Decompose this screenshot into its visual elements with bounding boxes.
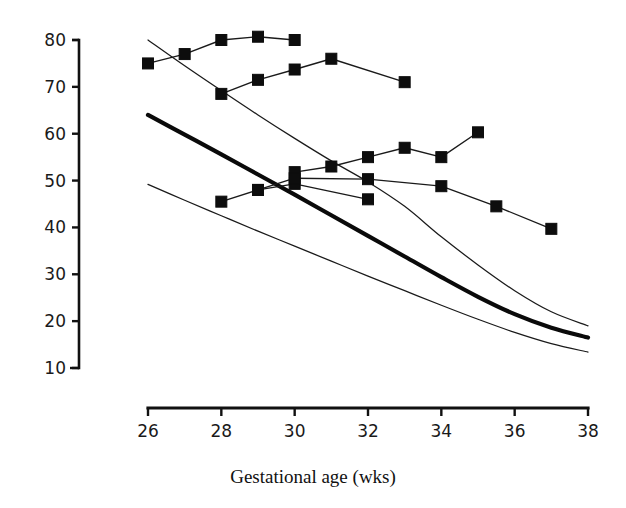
series-connector-line xyxy=(221,59,404,94)
series-marker-square xyxy=(289,64,300,75)
series-marker-square xyxy=(363,174,374,185)
series-marker-square xyxy=(179,49,190,60)
y-tick-label: 20 xyxy=(44,311,66,331)
x-tick-label: 28 xyxy=(211,421,233,441)
y-axis-tick-labels: 1020304050607080 xyxy=(44,30,66,378)
series-marker-square xyxy=(399,142,410,153)
series-marker-square xyxy=(363,194,374,205)
series-marker-square xyxy=(546,223,557,234)
series-marker-square xyxy=(436,152,447,163)
y-tick-label: 40 xyxy=(44,217,66,237)
series-marker-square xyxy=(253,74,264,85)
series-marker-square xyxy=(253,31,264,42)
x-axis-title: Gestational age (wks) xyxy=(230,466,396,488)
y-tick-label: 50 xyxy=(44,171,66,191)
series-connector-line xyxy=(295,132,478,172)
series-marker-square xyxy=(326,53,337,64)
series-marker-square xyxy=(253,184,264,195)
x-tick-label: 36 xyxy=(504,421,526,441)
y-tick-label: 10 xyxy=(44,358,66,378)
series-marker-square xyxy=(491,201,502,212)
x-tick-label: 32 xyxy=(357,421,379,441)
data-series xyxy=(253,173,557,235)
y-tick-label: 30 xyxy=(44,264,66,284)
x-tick-label: 38 xyxy=(577,421,599,441)
x-tick-label: 26 xyxy=(137,421,159,441)
series-marker-square xyxy=(216,196,227,207)
data-series xyxy=(216,53,410,99)
series-marker-square xyxy=(143,58,154,69)
x-tick-label: 30 xyxy=(284,421,306,441)
series-marker-square xyxy=(326,161,337,172)
series-marker-square xyxy=(216,88,227,99)
y-tick-label: 70 xyxy=(44,77,66,97)
data-series xyxy=(289,127,483,178)
y-axis-ticks xyxy=(70,40,79,368)
x-axis-tick-labels: 26283032343638 xyxy=(137,421,599,441)
centile-curve-thin xyxy=(148,184,588,352)
series-marker-square xyxy=(436,181,447,192)
series-marker-square xyxy=(363,152,374,163)
chart-plot-area: 1020304050607080 26283032343638 Gestatio… xyxy=(0,0,626,508)
series-marker-square xyxy=(473,127,484,138)
series-marker-square xyxy=(399,77,410,88)
y-tick-label: 80 xyxy=(44,30,66,50)
x-tick-label: 34 xyxy=(431,421,453,441)
data-series xyxy=(143,31,301,69)
series-marker-square xyxy=(289,35,300,46)
series-marker-square xyxy=(216,35,227,46)
series-marker-square xyxy=(289,173,300,184)
y-tick-label: 60 xyxy=(44,124,66,144)
data-series-group xyxy=(143,31,557,234)
chart-figure: 1020304050607080 26283032343638 Gestatio… xyxy=(0,0,626,508)
centile-curve-thick xyxy=(148,115,588,338)
